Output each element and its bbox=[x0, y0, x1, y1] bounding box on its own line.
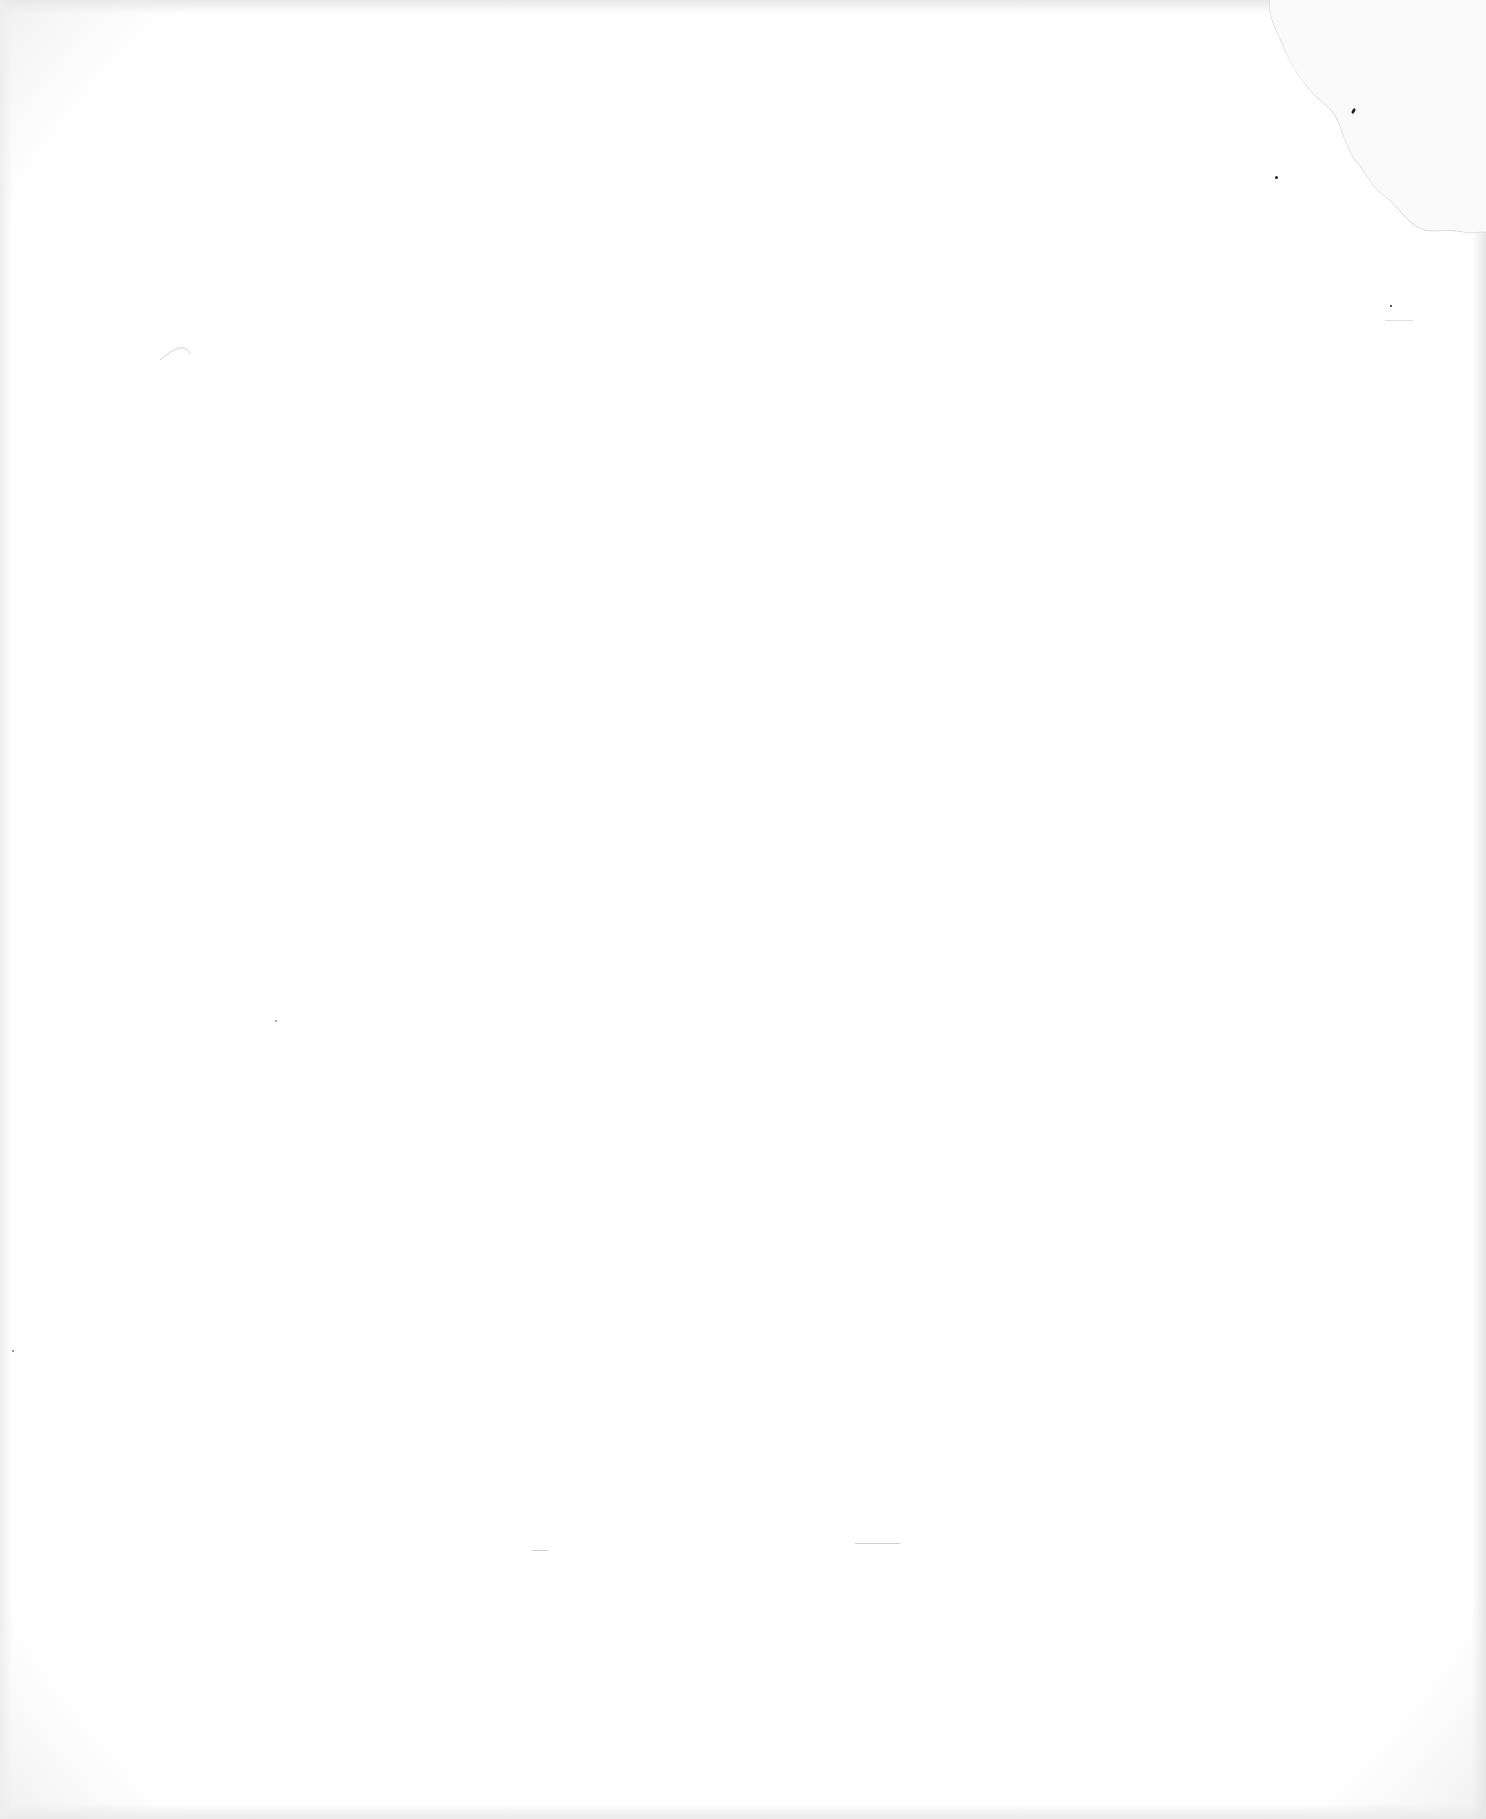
faint-scan-line bbox=[855, 1543, 900, 1544]
speck-mark bbox=[1275, 176, 1278, 179]
faint-scan-line bbox=[1385, 320, 1413, 321]
faint-pencil-mark bbox=[150, 340, 210, 370]
page-edge-left bbox=[0, 0, 12, 1819]
page-edge-right bbox=[1472, 0, 1486, 1819]
speck-mark bbox=[1390, 305, 1392, 307]
water-stain-mark bbox=[1240, 0, 1486, 250]
speck-mark bbox=[12, 1350, 14, 1352]
blank-document-page bbox=[0, 0, 1486, 1819]
page-edge-bottom bbox=[0, 1803, 1486, 1819]
faint-scan-line bbox=[532, 1550, 548, 1551]
speck-mark bbox=[275, 1020, 277, 1022]
